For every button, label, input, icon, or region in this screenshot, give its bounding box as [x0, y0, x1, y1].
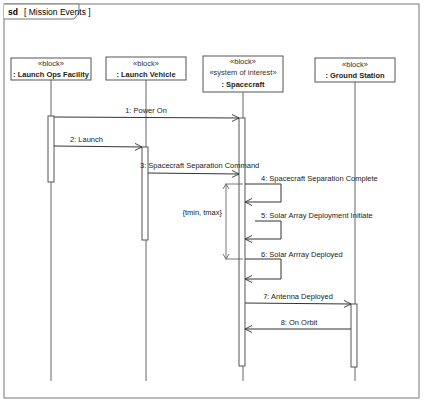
frame-title: [ Mission Events ]	[24, 7, 91, 17]
message-2[interactable]: 2: Launch	[54, 135, 142, 147]
message-8[interactable]: 8: On Orbit	[245, 318, 351, 329]
message-label: 1: Power On	[125, 106, 167, 115]
message-5[interactable]: 5: Solar Array Deployment Initiate	[245, 211, 373, 239]
message-label: 3: Spacecraft Separation Command	[140, 161, 259, 170]
lifeline-launch-ops-facility[interactable]: «block» : Launch Ops Facility	[11, 58, 91, 381]
lifeline-name: : Ground Station	[325, 71, 385, 80]
lifeline-name: : Launch Ops Facility	[13, 70, 90, 79]
activation-bar	[351, 304, 357, 367]
message-label: 2: Launch	[70, 135, 103, 144]
stereotype: «block»	[133, 59, 159, 68]
stereotype: «block»	[342, 60, 368, 69]
lifeline-name: : Spacecraft	[222, 80, 265, 89]
activation-bar	[239, 118, 245, 366]
frame-kind: sd	[8, 7, 18, 17]
stereotype: «block»	[230, 57, 256, 66]
sequence-diagram: sd [ Mission Events ] «block» : Launch O…	[0, 0, 424, 403]
constraint-label: {tmin, tmax}	[182, 208, 222, 217]
stereotype: «block»	[38, 59, 64, 68]
stereotype: «system of interest»	[209, 68, 276, 77]
message-6[interactable]: 6: Solar Arrray Deployed	[245, 250, 343, 279]
message-7[interactable]: 7: Antenna Deployed	[245, 292, 351, 304]
duration-constraint[interactable]: {tmin, tmax}	[182, 184, 243, 259]
message-4[interactable]: 4: Spacecraft Separation Complete	[245, 174, 378, 202]
message-label: 4: Spacecraft Separation Complete	[261, 174, 378, 183]
message-label: 7: Antenna Deployed	[263, 292, 333, 301]
message-label: 6: Solar Arrray Deployed	[261, 250, 343, 259]
activation-bar	[48, 116, 54, 182]
message-label: 5: Solar Array Deployment Initiate	[261, 211, 373, 220]
message-label: 8: On Orbit	[281, 318, 319, 327]
lifeline-name: : Launch Vehicle	[116, 70, 175, 79]
